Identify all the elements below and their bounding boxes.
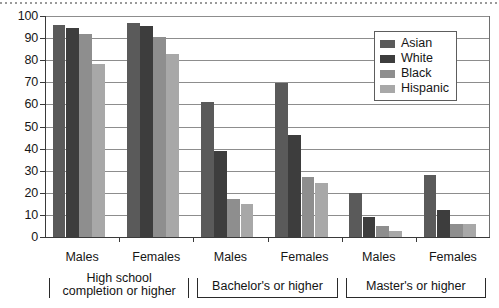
bar-chart-figure: 0102030405060708090100 AsianWhiteBlackHi… (0, 0, 499, 308)
y-tick-label: 30 (24, 164, 38, 177)
legend-swatch-icon (380, 70, 395, 78)
x-tick-label: Females (429, 251, 477, 264)
y-tick-label: 70 (24, 76, 38, 89)
bracket-label: Master's or higher (363, 280, 469, 293)
legend-label: Asian (401, 37, 432, 50)
y-tick-label: 60 (24, 98, 38, 111)
bar-hispanic-3 (315, 183, 328, 237)
legend-swatch-icon (380, 85, 395, 93)
legend-label: Black (401, 67, 432, 80)
y-axis: 0102030405060708090100 (8, 16, 38, 238)
bar-white-4 (363, 217, 376, 237)
bar-black-2 (227, 199, 240, 237)
bar-black-4 (376, 226, 389, 237)
legend-item-hispanic: Hispanic (380, 81, 449, 96)
bar-black-5 (450, 224, 463, 237)
x-tick-label: Males (214, 251, 247, 264)
bar-white-5 (437, 210, 450, 237)
x-axis-separator (342, 237, 343, 242)
category-group-brackets: High schoolcompletion or higherBachelor'… (45, 272, 490, 306)
y-tick-label: 90 (24, 32, 38, 45)
y-tick-label: 20 (24, 187, 38, 200)
bar-hispanic-0 (92, 64, 105, 237)
legend-item-black: Black (380, 66, 449, 81)
y-tick-label: 50 (24, 120, 38, 133)
y-tick-label: 10 (24, 209, 38, 222)
bar-asian-3 (275, 83, 288, 237)
bar-hispanic-5 (463, 224, 476, 237)
legend-label: Hispanic (401, 82, 449, 95)
bracket-label: Bachelor's or higher (209, 280, 326, 293)
bar-white-1 (140, 26, 153, 237)
bar-asian-2 (201, 102, 214, 237)
bar-black-1 (153, 37, 166, 237)
y-tick-label: 100 (18, 10, 38, 23)
x-tick-label: Females (132, 251, 180, 264)
chart-legend: AsianWhiteBlackHispanic (374, 31, 457, 101)
x-tick-label: Males (362, 251, 395, 264)
legend-label: White (401, 52, 433, 65)
x-axis-labels: MalesFemalesMalesFemalesMalesFemales (45, 251, 490, 267)
bar-asian-0 (53, 25, 66, 237)
bar-black-0 (79, 34, 92, 237)
x-tick-label: Females (281, 251, 329, 264)
bar-white-3 (288, 135, 301, 237)
bar-asian-4 (349, 193, 362, 237)
y-tick-label: 0 (31, 231, 38, 244)
bar-black-3 (302, 177, 315, 237)
x-axis-separator (268, 237, 269, 242)
bar-white-0 (66, 28, 79, 237)
legend-swatch-icon (380, 55, 395, 63)
bar-hispanic-4 (389, 231, 402, 237)
x-axis-separator (119, 237, 120, 242)
bar-white-2 (214, 151, 227, 237)
bar-hispanic-2 (241, 204, 254, 237)
bar-hispanic-1 (166, 54, 179, 237)
x-axis-separator (416, 237, 417, 242)
legend-item-white: White (380, 51, 449, 66)
bracket-label: High schoolcompletion or higher (50, 272, 188, 298)
bar-asian-5 (424, 175, 437, 237)
y-tick-label: 40 (24, 142, 38, 155)
y-tick-label: 80 (24, 54, 38, 67)
bar-asian-1 (127, 23, 140, 237)
legend-item-asian: Asian (380, 36, 449, 51)
legend-swatch-icon (380, 40, 395, 48)
x-tick-label: Males (65, 251, 98, 264)
scan-edge-artifact (0, 2, 499, 4)
x-axis-separator (193, 237, 194, 242)
